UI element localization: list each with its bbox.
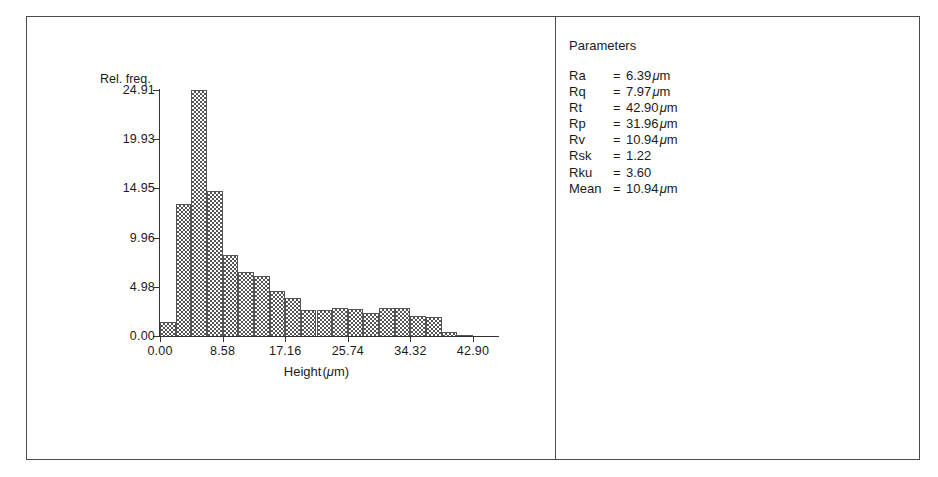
y-tick-label: 14.95 (123, 181, 155, 195)
y-tick-label: 4.98 (130, 280, 155, 294)
parameters-panel: Parameters Ra=6.39 μmRq=7.97 μmRt=42.90 … (556, 16, 920, 460)
y-tick-label: 0.00 (130, 329, 155, 343)
x-tick-mark (410, 336, 411, 342)
parameter-row: Rp=31.96 μm (569, 116, 678, 132)
histogram-bar (363, 313, 379, 336)
histogram-bar (426, 317, 442, 336)
x-tick-mark (223, 336, 224, 342)
parameter-row: Mean=10.94 μm (569, 181, 678, 197)
parameter-value: 3.60 (626, 165, 651, 181)
x-tick-label: 0.00 (147, 344, 172, 358)
mu-glyph: μ (652, 84, 659, 99)
parameter-key: Rv (569, 132, 613, 148)
x-tick-mark (160, 336, 161, 342)
parameter-row: Ra=6.39 μm (569, 68, 678, 84)
mu-glyph: μ (660, 100, 667, 115)
parameter-equals: = (613, 84, 626, 100)
parameter-equals: = (613, 165, 626, 181)
parameter-row: Rt=42.90 μm (569, 100, 678, 116)
mu-glyph: μ (652, 68, 659, 83)
x-tick-label: 8.58 (210, 344, 235, 358)
parameter-value: 7.97 μm (626, 84, 670, 100)
plot-area: 0.004.989.9614.9519.9324.91 0.008.5817.1… (160, 90, 473, 336)
x-tick-label: 42.90 (457, 344, 489, 358)
parameter-value: 31.96 μm (626, 116, 678, 132)
parameter-value: 10.94 μm (626, 132, 678, 148)
histogram-bar (238, 272, 254, 336)
parameter-row: Rku=3.60 (569, 165, 678, 181)
x-axis-label-text: Height (μm) (284, 364, 349, 379)
histogram-bar (457, 335, 473, 336)
parameter-key: Rku (569, 165, 613, 181)
y-tick-label: 9.96 (130, 231, 155, 245)
parameter-equals: = (613, 132, 626, 148)
x-tick-label: 25.74 (332, 344, 364, 358)
histogram-bar (285, 298, 301, 337)
mu-glyph: μ (660, 116, 667, 131)
parameters-title: Parameters (569, 38, 636, 53)
histogram-panel: Rel. freq. 0.004.989.9614.9519.9324.91 0… (26, 16, 555, 460)
parameter-value: 1.22 (626, 148, 651, 164)
histogram-bar (207, 191, 223, 336)
x-tick-mark (348, 336, 349, 342)
parameter-value: 10.94 μm (626, 181, 678, 197)
parameter-value: 6.39 μm (626, 68, 670, 84)
parameter-equals: = (613, 116, 626, 132)
parameter-key: Rp (569, 116, 613, 132)
x-axis-line (159, 336, 499, 337)
histogram-bar (160, 322, 176, 336)
parameter-row: Rsk=1.22 (569, 148, 678, 164)
histogram-bar (379, 308, 395, 336)
parameters-list: Ra=6.39 μmRq=7.97 μmRt=42.90 μmRp=31.96 … (569, 68, 678, 197)
mu-glyph: μ (327, 364, 334, 379)
histogram-bars (160, 90, 473, 336)
histogram-bar (442, 332, 458, 336)
histogram-bar (410, 316, 426, 336)
parameter-row: Rq=7.97 μm (569, 84, 678, 100)
histogram-bar (301, 310, 317, 336)
parameter-key: Mean (569, 181, 613, 197)
histogram-bar (191, 90, 207, 336)
parameter-key: Rt (569, 100, 613, 116)
y-tick-label: 24.91 (123, 83, 155, 97)
parameter-equals: = (613, 181, 626, 197)
mu-glyph: μ (660, 181, 667, 196)
parameter-row: Rv=10.94 μm (569, 132, 678, 148)
x-tick-mark (285, 336, 286, 342)
parameter-equals: = (613, 148, 626, 164)
histogram-bar (223, 255, 239, 336)
parameter-key: Rsk (569, 148, 613, 164)
parameter-key: Ra (569, 68, 613, 84)
parameter-equals: = (613, 68, 626, 84)
figure-root: Rel. freq. 0.004.989.9614.9519.9324.91 0… (0, 0, 938, 477)
histogram-bar (270, 291, 286, 336)
mu-glyph: μ (660, 132, 667, 147)
parameter-key: Rq (569, 84, 613, 100)
histogram-bar (332, 308, 348, 336)
histogram-bar (176, 204, 192, 336)
histogram-bar (395, 308, 411, 336)
histogram-bar (317, 310, 333, 336)
x-tick-label: 34.32 (394, 344, 426, 358)
x-axis-label: Height (μm) (160, 364, 473, 379)
x-tick-label: 17.16 (269, 344, 301, 358)
histogram-bar (348, 309, 364, 336)
parameter-equals: = (613, 100, 626, 116)
parameter-value: 42.90 μm (626, 100, 678, 116)
y-tick-label: 19.93 (123, 132, 155, 146)
histogram-bar (254, 276, 270, 336)
x-tick-mark (473, 336, 474, 342)
